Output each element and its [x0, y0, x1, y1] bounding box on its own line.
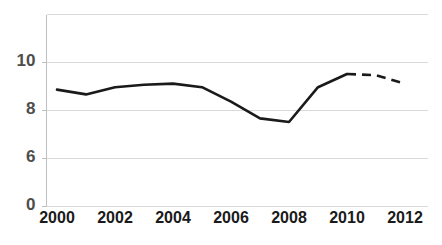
- y-tick-label: 6: [26, 147, 35, 166]
- x-tick-label: 2006: [213, 209, 249, 226]
- data-line-projected: [347, 74, 405, 84]
- y-tick-label: 0: [26, 195, 35, 214]
- x-tick-label: 2004: [155, 209, 191, 226]
- x-tick-label-group: 2000200220042006200820102012: [39, 209, 423, 226]
- y-tick-label-group: 10860: [17, 51, 36, 214]
- x-tick-label: 2002: [97, 209, 133, 226]
- gridline-group: [47, 15, 429, 207]
- y-tick-label: 10: [17, 51, 36, 70]
- y-tick-mark-group: [42, 63, 47, 207]
- x-tick-label: 2000: [39, 209, 75, 226]
- chart-canvas: 10860 2000200220042006200820102012: [0, 0, 442, 245]
- data-line-actual: [57, 74, 347, 122]
- x-tick-label: 2010: [329, 209, 365, 226]
- line-chart: 10860 2000200220042006200820102012: [0, 0, 442, 245]
- data-series-group: [57, 74, 405, 122]
- y-tick-label: 8: [26, 99, 35, 118]
- x-tick-label: 2012: [387, 209, 423, 226]
- x-tick-label: 2008: [271, 209, 307, 226]
